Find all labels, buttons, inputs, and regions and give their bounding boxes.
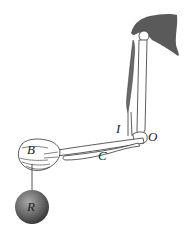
humerus-head <box>139 31 149 41</box>
label-resistance: R <box>27 200 35 213</box>
label-fulcrum: O <box>148 130 157 143</box>
label-insertion: I <box>116 122 120 135</box>
scapula <box>131 14 179 56</box>
biceps-muscle <box>127 40 135 113</box>
label-lever-arm: C <box>98 149 107 162</box>
humerus <box>137 40 147 135</box>
hand <box>18 139 60 170</box>
label-hand: B <box>27 143 35 156</box>
